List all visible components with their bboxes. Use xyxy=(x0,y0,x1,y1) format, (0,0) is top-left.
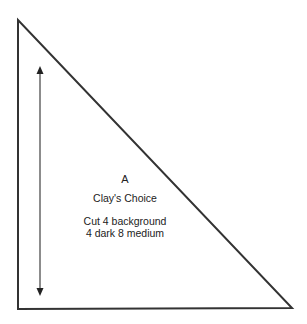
cutting-instruction-line-1: Cut 4 background xyxy=(60,215,190,227)
piece-letter: A xyxy=(60,173,190,185)
cutting-instruction-line-2: 4 dark 8 medium xyxy=(60,227,190,239)
block-name: Clay's Choice xyxy=(60,192,190,204)
triangle-template xyxy=(0,0,307,324)
triangle-outline xyxy=(18,20,292,309)
